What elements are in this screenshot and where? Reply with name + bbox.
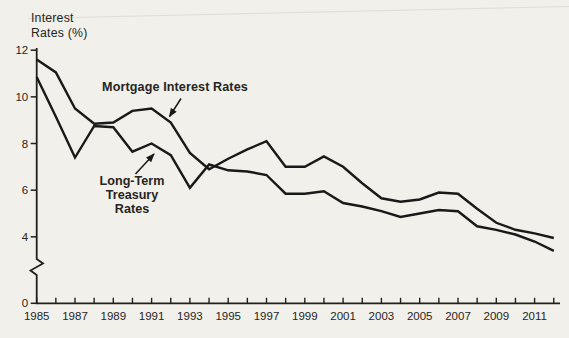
- x-tick-label: 2007: [445, 310, 471, 322]
- page-artifact-line: [28, 7, 569, 19]
- mortgage-series-label: Mortgage Interest Rates: [102, 80, 248, 94]
- y-tick-label: 10: [15, 91, 28, 103]
- y-axis-title-line2: Rates (%): [31, 26, 87, 41]
- treasury-line: [37, 77, 554, 251]
- x-tick-label: 2005: [407, 310, 433, 322]
- x-tick-label: 1985: [24, 310, 50, 322]
- treasury-series-label-line3: Rates: [94, 203, 170, 217]
- treasury-series-label-line1: Long-Term: [94, 175, 170, 189]
- treasury-label-arrow: [136, 154, 155, 174]
- y-tick-label: 12: [15, 44, 28, 56]
- figure: 1210864019851987198919911993199519971999…: [0, 0, 569, 338]
- x-tick-label: 2009: [484, 310, 510, 322]
- x-tick-label: 1989: [101, 310, 127, 322]
- y-tick-label: 0: [22, 297, 28, 309]
- x-tick-label: 1997: [254, 310, 280, 322]
- y-axis-title: Interest Rates (%): [31, 11, 87, 41]
- x-tick-label: 1995: [215, 310, 241, 322]
- y-tick-label: 8: [22, 138, 28, 150]
- treasury-series-label-line2: Treasury: [94, 189, 170, 203]
- x-tick-label: 2011: [522, 310, 547, 322]
- line-chart: 1210864019851987198919911993199519971999…: [0, 0, 569, 338]
- x-tick-label: 1991: [139, 310, 165, 322]
- mortgage-label-arrow: [170, 99, 182, 117]
- y-tick-label: 6: [22, 184, 28, 196]
- x-tick-label: 2003: [369, 310, 395, 322]
- x-tick-label: 1999: [292, 310, 318, 322]
- y-axis-title-line1: Interest: [31, 11, 87, 26]
- x-tick-label: 2001: [330, 310, 356, 322]
- treasury-series-label: Long-Term Treasury Rates: [94, 175, 170, 216]
- x-tick-label: 1987: [62, 310, 88, 322]
- x-tick-label: 1993: [177, 310, 203, 322]
- y-tick-label: 4: [22, 231, 29, 243]
